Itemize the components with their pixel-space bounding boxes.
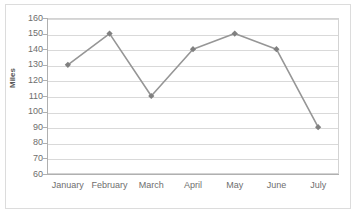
y-tick-label: 80 — [3, 138, 43, 147]
data-series-miles — [47, 18, 339, 174]
y-tick-label: 100 — [3, 107, 43, 116]
y-tick-label: 150 — [3, 29, 43, 38]
y-tick-label: 90 — [3, 123, 43, 132]
y-axis-tick-labels: 16015014013012011010090807060 — [0, 18, 43, 174]
x-tick-label: May — [226, 180, 243, 190]
line-chart: 16015014013012011010090807060 Miles Janu… — [0, 0, 356, 214]
x-tick-label: January — [52, 180, 84, 190]
y-tick-label: 160 — [3, 14, 43, 23]
x-tick-label: February — [92, 180, 128, 190]
series-markers — [65, 31, 321, 131]
y-tick-label: 60 — [3, 170, 43, 179]
y-axis-title: Miles — [8, 58, 17, 98]
y-tick-label: 70 — [3, 154, 43, 163]
x-tick-label: June — [267, 180, 287, 190]
data-point-marker — [315, 124, 321, 130]
x-axis-line — [47, 174, 339, 175]
data-point-marker — [273, 46, 279, 52]
x-tick-label: July — [310, 180, 326, 190]
y-tick-label: 140 — [3, 45, 43, 54]
x-tick-label: April — [184, 180, 202, 190]
x-axis-tick-labels: JanuaryFebruaryMarchAprilMayJuneJuly — [47, 180, 339, 200]
x-tick-label: March — [139, 180, 164, 190]
data-point-marker — [232, 31, 238, 37]
